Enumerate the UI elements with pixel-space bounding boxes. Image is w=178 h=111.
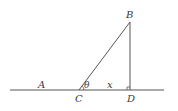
- label-d: D: [126, 93, 135, 104]
- label-b: B: [125, 9, 133, 20]
- label-x: x: [107, 79, 113, 90]
- triangle-diagram: A B C D θ x: [0, 0, 178, 111]
- label-a: A: [37, 79, 45, 90]
- label-theta: θ: [84, 80, 90, 90]
- label-c: C: [75, 93, 83, 104]
